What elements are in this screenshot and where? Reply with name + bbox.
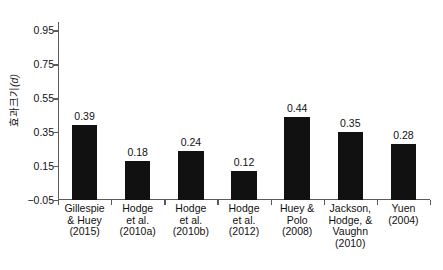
y-axis-tick-mark (53, 166, 58, 167)
bar (178, 151, 204, 200)
y-axis-line (58, 22, 59, 200)
x-axis-category-line: (2008) (280, 226, 314, 238)
bar-value-label: 0.35 (340, 118, 360, 129)
y-axis-tick-label: −0.05 (27, 195, 54, 206)
bar (125, 161, 151, 200)
x-axis-category-label: Jackson,Hodge, &Vaughn(2010) (328, 203, 372, 249)
x-axis-tick-mark (430, 200, 431, 205)
x-axis-category-line: Hodge (120, 203, 156, 215)
bar (391, 144, 417, 200)
x-axis-category-line: (2012) (229, 226, 260, 238)
x-axis-category-label: Hodgeet al.(2010b) (173, 203, 209, 238)
bar-value-label: 0.24 (181, 137, 201, 148)
y-axis-tick-mark (53, 98, 58, 99)
x-axis-category-label: Gillespie& Huey(2015) (64, 203, 104, 238)
y-axis-tick-label: 0.75 (34, 59, 54, 70)
x-axis-category-line: (2010b) (173, 226, 209, 238)
y-axis-title-italic-d: (d) (8, 74, 20, 87)
bar-value-label: 0.39 (74, 111, 94, 122)
bar (231, 171, 257, 200)
x-axis-category-line: Huey & (280, 203, 314, 215)
y-axis-title-text: 효과크기(d) (6, 74, 21, 127)
x-axis-category-label: Huey &Polo(2008) (280, 203, 314, 238)
bar-value-label: 0.44 (287, 103, 307, 114)
bar-value-label: 0.28 (393, 130, 413, 141)
x-axis-category-line: Yuen (388, 203, 418, 215)
x-axis-category-line: Hodge (173, 203, 209, 215)
bar (338, 132, 364, 200)
x-axis-category-label: Hodgeet al.(2010a) (120, 203, 156, 238)
bar (72, 125, 98, 200)
y-axis-tick-mark (53, 132, 58, 133)
y-axis-tick-label: 0.15 (34, 161, 54, 172)
y-axis-tick-label: 0.35 (34, 127, 54, 138)
x-axis-category-line: (2015) (64, 226, 104, 238)
y-axis-tick-label: 0.95 (34, 25, 54, 36)
y-axis-tick-mark (53, 30, 58, 31)
x-axis-category-line: Jackson, (328, 203, 372, 215)
y-axis-title-plain: 효과크기 (8, 86, 20, 126)
x-axis-category-line: (2004) (388, 215, 418, 227)
y-axis-tick-labels: −0.050.150.350.550.750.95 (22, 0, 58, 270)
y-axis-tick-mark (53, 64, 58, 65)
y-axis-tick-label: 0.55 (34, 93, 54, 104)
x-axis-category-line: (2010) (328, 238, 372, 250)
bar-value-label: 0.18 (127, 147, 147, 158)
plot-area: 0.390.180.240.120.440.350.28 (58, 22, 430, 200)
effect-size-bar-chart: 효과크기(d) −0.050.150.350.550.750.95 0.390.… (0, 0, 443, 270)
x-axis-category-line: Gillespie (64, 203, 104, 215)
x-axis-category-labels: Gillespie& Huey(2015)Hodgeet al.(2010a)H… (58, 203, 430, 267)
x-axis-category-label: Yuen(2004) (388, 203, 418, 226)
bar (284, 117, 310, 200)
x-axis-category-line: Hodge (229, 203, 260, 215)
x-axis-category-label: Hodgeet al.(2012) (229, 203, 260, 238)
bar-value-label: 0.12 (234, 157, 254, 168)
x-axis-category-line: (2010a) (120, 226, 156, 238)
